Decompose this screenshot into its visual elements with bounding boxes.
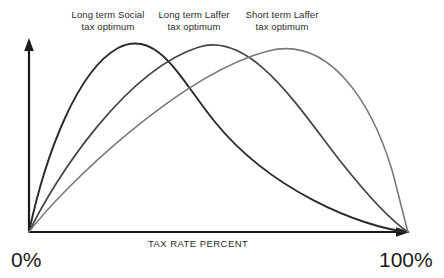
curve-label-long-term-laffer: Long term Laffer tax optimum [152, 9, 236, 32]
curve-label-line1: Long term Laffer [152, 9, 236, 21]
x-axis-title: TAX RATE PERCENT [148, 238, 248, 249]
curve-label-long-term-social: Long term Social tax optimum [62, 9, 154, 32]
curve-label-line2: tax optimum [152, 21, 236, 33]
curve-long-term-laffer [29, 45, 408, 232]
x-axis-min-tick-label: 0% [11, 248, 41, 272]
y-axis-arrow-icon [24, 38, 34, 51]
curve-label-line2: tax optimum [62, 21, 154, 33]
x-axis-max-tick-label: 100% [379, 248, 433, 272]
laffer-curve-figure: Long term Social tax optimum Long term L… [0, 0, 444, 278]
curve-label-line1: Short term Laffer [240, 9, 324, 21]
curve-label-line1: Long term Social [62, 9, 154, 21]
chart-canvas [0, 0, 444, 278]
curve-label-line2: tax optimum [240, 21, 324, 33]
curve-label-short-term-laffer: Short term Laffer tax optimum [240, 9, 324, 32]
